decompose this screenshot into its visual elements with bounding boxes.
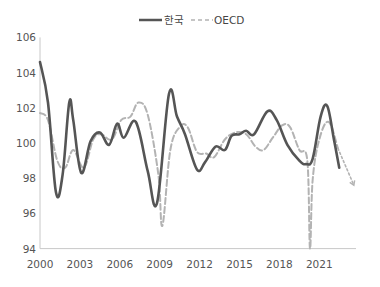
x-tick-label: 2012 [186, 258, 213, 270]
line-chart: 한국 OECD 94969810010210410620002003200620… [0, 0, 380, 287]
legend: 한국 OECD [139, 14, 244, 26]
y-tick-label: 100 [16, 137, 36, 149]
x-tick-label: 2015 [226, 258, 253, 270]
series-oecd-line [40, 102, 338, 248]
x-tick-label: 2018 [266, 258, 293, 270]
y-tick-label: 104 [16, 67, 36, 79]
y-tick-label: 96 [23, 207, 37, 219]
axes: 9496981001021041062000200320062009201220… [16, 31, 356, 270]
x-tick-label: 2021 [306, 258, 333, 270]
x-tick-label: 2000 [27, 258, 54, 270]
x-tick-label: 2003 [67, 258, 94, 270]
y-tick-label: 94 [23, 243, 37, 255]
legend-oecd-label: OECD [214, 14, 244, 26]
plot-area [40, 62, 355, 249]
y-tick-label: 106 [16, 31, 36, 43]
legend-korea-label: 한국 [164, 14, 184, 26]
y-tick-label: 102 [16, 102, 36, 114]
y-tick-label: 98 [23, 172, 36, 184]
x-tick-label: 2006 [106, 258, 133, 270]
x-tick-label: 2009 [146, 258, 173, 270]
